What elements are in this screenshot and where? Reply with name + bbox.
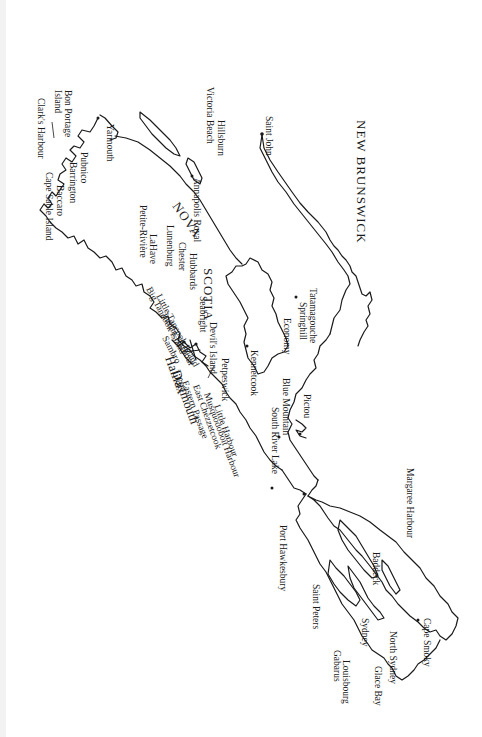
place-label-lahave: LaHave — [148, 234, 158, 264]
marker-south-river-lake — [271, 487, 274, 490]
place-label-saint-john: Saint John — [264, 116, 274, 156]
place-label-baddeck: Baddeck — [371, 552, 381, 585]
place-label-yarmouth: Yarmouth — [105, 124, 115, 162]
place-label-sydney: Sydney — [360, 618, 370, 647]
place-label-glace-bay: Glace Bay — [373, 666, 383, 706]
place-label-pubnico: Pubnico — [79, 152, 89, 183]
place-label-hillsburn: Hillsburn — [216, 120, 226, 156]
place-label-annapolis-royal: Annapolis Royal — [192, 178, 202, 242]
pictou-harbour — [296, 420, 306, 438]
place-label-petite-riviere: Petite-Rivière — [138, 205, 148, 258]
marker-springhill — [295, 296, 298, 299]
place-label-pictou: Pictou — [302, 394, 312, 419]
marker-yarmouth — [97, 117, 100, 120]
place-label-petpeswick: Petpeswick — [220, 358, 230, 402]
place-label-gabarus: Gabarus — [332, 650, 342, 682]
leader-bon-portage — [52, 122, 54, 138]
bras-dor-lake-4 — [382, 560, 400, 594]
marker-dartmouth — [194, 342, 197, 345]
place-label-bon-portage-line1: Bon Portage — [63, 90, 73, 137]
nova-scotia-map: NEW BRUNSWICK NOVA SCOTIA Halifax Dartmo… — [0, 0, 482, 737]
region-label-new-brunswick: NEW BRUNSWICK — [354, 120, 369, 244]
marker-halifax — [182, 340, 185, 343]
place-label-port-hawkesbury: Port Hawkesbury — [278, 525, 288, 591]
place-label-cape-sable-island: Cape Sable Island — [44, 172, 54, 241]
place-label-chester: Chester — [177, 242, 187, 272]
marker-saint-john — [260, 132, 264, 136]
place-label-economy: Economy — [282, 318, 292, 355]
place-label-kennetcook: Kennetcook — [249, 350, 259, 396]
place-label-victoria-beach: Victoria Beach — [205, 87, 215, 144]
marker-kennetcook — [246, 345, 249, 348]
place-label-south-river-lake: South River Lake — [270, 407, 280, 474]
marker-port-hawkesbury — [303, 493, 306, 496]
marker-cape-smoky — [417, 619, 420, 622]
place-label-louisbourg: Louisbourg — [341, 660, 351, 704]
place-label-clarks-harbour: Clark's Harbour — [36, 98, 46, 159]
place-label-bon-portage-line2: Island — [53, 90, 63, 113]
annapolis-basin — [140, 112, 180, 156]
bras-dor-lake-1 — [328, 560, 360, 606]
marker-annapolis-royal — [191, 175, 194, 178]
place-label-baccaro: Baccaro — [55, 185, 65, 216]
place-label-devils-island: Devil's Island — [208, 322, 218, 374]
place-label-springhill: Springhill — [298, 302, 308, 340]
marker-pictou — [299, 433, 302, 436]
place-label-cape-smoky: Cape Smoky — [422, 618, 432, 667]
place-label-saint-peters: Saint Peters — [311, 584, 321, 629]
place-label-margaree-harbour: Margaree Harbour — [405, 468, 415, 539]
place-label-north-sydney: North Sydney — [388, 631, 398, 684]
place-label-blue-mountain: Blue Mountain — [281, 378, 291, 436]
place-label-hubbards: Hubbards — [188, 253, 198, 290]
place-label-barrington: Barrington — [68, 162, 78, 203]
place-label-lunenburg: Lunenburg — [165, 225, 175, 267]
place-label-tatamagouche: Tatamagouche — [308, 288, 318, 343]
place-label-seabright: Seabright — [198, 296, 208, 333]
